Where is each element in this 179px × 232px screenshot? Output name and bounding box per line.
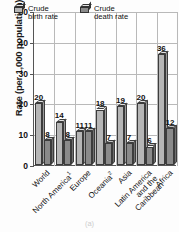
bar-value-label: 8 bbox=[40, 130, 54, 139]
bar-value-label: 8 bbox=[61, 130, 75, 139]
bar-death-rate bbox=[105, 143, 112, 165]
bar-value-label: 7 bbox=[102, 133, 116, 142]
crude-rates-bar-chart: Rate (per 1,000 population) 010203040502… bbox=[0, 0, 179, 232]
bar-side-face bbox=[153, 143, 156, 165]
bar-side-face bbox=[51, 137, 54, 165]
bar-death-rate bbox=[44, 140, 51, 165]
y-axis-tick bbox=[30, 74, 34, 75]
cube-front bbox=[80, 7, 89, 13]
y-axis-tick-label: 10 bbox=[8, 130, 28, 140]
y-axis-tick bbox=[30, 104, 34, 105]
bar-birth-rate bbox=[137, 103, 144, 165]
y-axis-tick-label: 20 bbox=[8, 99, 28, 109]
bar-birth-rate bbox=[56, 122, 63, 165]
y-axis-tick bbox=[30, 135, 34, 136]
gridline-horizontal bbox=[34, 74, 177, 75]
bar-value-label: 18 bbox=[93, 99, 107, 108]
bar-front bbox=[166, 128, 173, 165]
bar-side-face bbox=[112, 140, 115, 165]
bar-value-label: 36 bbox=[154, 44, 168, 53]
cube-icon bbox=[14, 4, 25, 13]
bar-death-rate bbox=[166, 128, 173, 165]
bar-value-label: 14 bbox=[52, 111, 66, 120]
bar-value-label: 19 bbox=[113, 96, 127, 105]
bar-death-rate bbox=[146, 147, 153, 165]
bar-front bbox=[137, 103, 144, 165]
bar-value-label: 6 bbox=[142, 136, 156, 145]
bar-front bbox=[126, 143, 133, 165]
y-axis-tick-label: 0 bbox=[8, 161, 28, 171]
bar-front bbox=[85, 131, 92, 165]
bar-front bbox=[44, 140, 51, 165]
bar-value-label: 12 bbox=[163, 118, 177, 127]
legend-label: Crudebirth rate bbox=[28, 5, 58, 21]
bar-front bbox=[56, 122, 63, 165]
bar-front bbox=[158, 54, 165, 165]
bar-death-rate bbox=[126, 143, 133, 165]
bar-value-label: 7 bbox=[122, 133, 136, 142]
y-axis-tick-label: 40 bbox=[8, 38, 28, 48]
y-axis-tick bbox=[30, 43, 34, 44]
bar-side-face bbox=[92, 128, 95, 165]
bar-death-rate bbox=[64, 140, 71, 165]
bar-value-label: 20 bbox=[134, 93, 148, 102]
bar-birth-rate bbox=[76, 131, 83, 165]
cube-icon bbox=[80, 4, 91, 13]
bar-value-label: 20 bbox=[32, 93, 46, 102]
bar-side-face bbox=[71, 137, 74, 165]
gridline-vertical bbox=[177, 12, 178, 166]
cube-side bbox=[23, 1, 25, 10]
cube-front bbox=[14, 7, 23, 13]
bar-value-label: 11 bbox=[81, 121, 95, 130]
bar-death-rate bbox=[85, 131, 92, 165]
bar-birth-rate bbox=[158, 54, 165, 165]
legend-label: Crudedeath rate bbox=[94, 5, 128, 21]
bar-side-face bbox=[174, 125, 177, 165]
y-axis-tick-label: 30 bbox=[8, 69, 28, 79]
y-axis-tick bbox=[30, 166, 34, 167]
bar-side-face bbox=[133, 140, 136, 165]
plot-area: 0102030405020814811111871972063612 bbox=[33, 12, 176, 166]
chart-legend: Crudebirth rateCrudedeath rate bbox=[14, 4, 139, 28]
cube-side bbox=[89, 1, 91, 10]
